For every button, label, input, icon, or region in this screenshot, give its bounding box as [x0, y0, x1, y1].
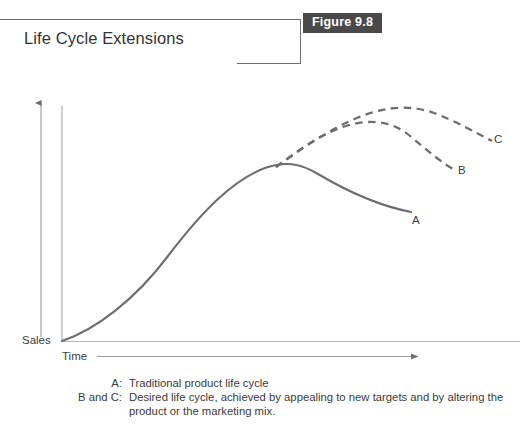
caption-text: Traditional product life cycle — [129, 377, 508, 391]
curve-label-a: A — [412, 214, 420, 226]
caption-row: B and C: Desired life cycle, achieved by… — [38, 391, 508, 419]
curve-label-b: B — [458, 164, 466, 176]
caption-text: Desired life cycle, achieved by appealin… — [129, 391, 508, 419]
caption-row: A: Traditional product life cycle — [38, 377, 508, 391]
curve-c-extension — [276, 108, 492, 167]
chart-plot — [0, 0, 532, 434]
curve-label-c: C — [494, 133, 502, 145]
figure-caption: A: Traditional product life cycle B and … — [38, 377, 508, 419]
caption-key: A: — [38, 377, 129, 391]
figure-container: Figure 9.8 Life Cycle Extensions Sales — [0, 0, 532, 434]
x-axis-label: Time — [62, 350, 87, 362]
curve-b-extension — [276, 122, 457, 171]
y-axis-label: Sales — [22, 334, 51, 346]
caption-key: B and C: — [38, 391, 129, 405]
curve-a-traditional — [62, 164, 411, 341]
